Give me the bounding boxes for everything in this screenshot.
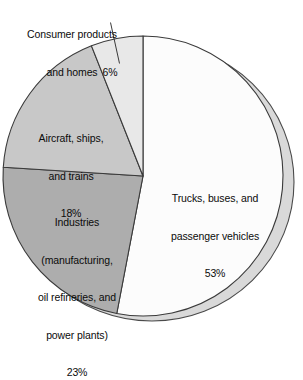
slice-label-consumer: Consumer products and homes bbox=[2, 3, 142, 103]
slice-value-industries: 23% bbox=[14, 366, 140, 379]
slice-label-industries: Industries (manufacturing, oil refinerie… bbox=[14, 191, 140, 380]
slice-label-consumer-line1: Consumer products bbox=[2, 28, 142, 41]
slice-label-trucks-line2: passenger vehicles bbox=[152, 230, 278, 243]
slice-label-trucks: Trucks, buses, and passenger vehicles 53… bbox=[152, 167, 278, 305]
slice-label-industries-line4: power plants) bbox=[14, 329, 140, 342]
slice-value-consumer: 6% bbox=[94, 66, 126, 79]
slice-label-industries-line1: Industries bbox=[14, 216, 140, 229]
slice-label-aircraft-line2: and trains bbox=[16, 170, 126, 183]
slice-label-industries-line2: (manufacturing, bbox=[14, 254, 140, 267]
slice-label-trucks-line1: Trucks, buses, and bbox=[152, 192, 278, 205]
slice-label-aircraft-line1: Aircraft, ships, bbox=[16, 132, 126, 145]
slice-value-trucks: 53% bbox=[152, 267, 278, 280]
slice-label-industries-line3: oil refineries, and bbox=[14, 291, 140, 304]
